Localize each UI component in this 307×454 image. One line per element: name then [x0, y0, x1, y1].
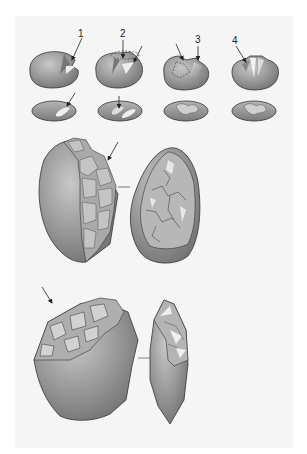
stage-1-plan-view: [32, 93, 76, 121]
chopper-edge-view: [150, 300, 188, 424]
core-side-view: [39, 138, 130, 262]
stage-4-plan-view: [232, 101, 276, 121]
core-face-view: [130, 148, 199, 263]
stage-1-pebble: 1: [30, 28, 84, 88]
stage-label-4: 4: [232, 35, 238, 46]
stage-label-3: 3: [195, 34, 201, 45]
chopper-main-view: [34, 287, 150, 420]
stage-2-pebble: 2: [96, 28, 143, 88]
stage-4-pebble: 4: [232, 35, 279, 90]
stage-2-plan-view: [98, 96, 142, 121]
stage-3-pebble: 3: [164, 34, 209, 90]
stage-3-plan-view: [164, 101, 208, 121]
stage-label-1: 1: [78, 28, 84, 39]
stone-flaking-diagram: 1 2 3 4: [0, 0, 307, 454]
stage-label-2: 2: [120, 28, 126, 39]
